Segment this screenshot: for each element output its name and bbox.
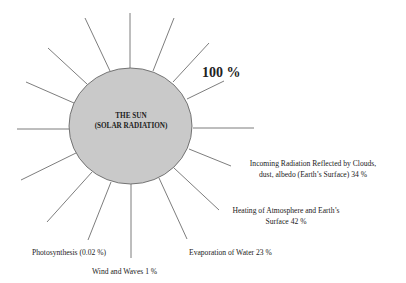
ray-top-left-2	[48, 48, 87, 84]
sun-title-line1: THE SUN	[115, 112, 147, 120]
ray-evaporation	[159, 178, 187, 239]
photosynthesis-label: Photosynthesis (0.02 %)	[32, 248, 107, 257]
ray-upper-right-1	[187, 81, 224, 99]
diagram-canvas: THE SUN (SOLAR RADIATION) 100 % Incoming…	[0, 0, 406, 283]
total-percent-label: 100 %	[202, 65, 241, 80]
ray-left-upper	[26, 82, 74, 103]
ray-lower-left	[47, 172, 92, 222]
solar-radiation-diagram: THE SUN (SOLAR RADIATION) 100 % Incoming…	[0, 0, 406, 283]
ray-heating	[174, 168, 219, 210]
reflected-label-line1: Incoming Radiation Reflected by Clouds,	[250, 159, 376, 168]
wind-waves-label: Wind and Waves 1 %	[92, 267, 158, 276]
reflected-label-line2: dust, albedo (Earth’s Surface) 34 %	[259, 170, 368, 179]
ray-reflected	[189, 149, 231, 166]
ray-photosynthesis	[88, 182, 111, 240]
heating-label-line2: Surface 42 %	[266, 217, 308, 226]
ray-left-lower	[21, 153, 76, 180]
ray-top-right	[153, 18, 174, 71]
evaporation-label: Evaporation of Water 23 %	[189, 248, 272, 257]
sun-title-line2: (SOLAR RADIATION)	[95, 122, 168, 130]
ray-top-left-1	[85, 18, 110, 71]
heating-label-line1: Heating of Atmosphere and Earth’s	[232, 206, 339, 215]
